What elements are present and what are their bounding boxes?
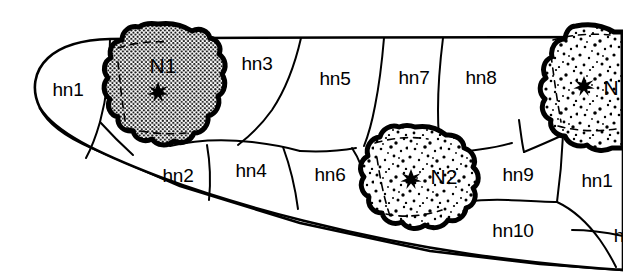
nodule-N1: N1 <box>104 23 225 144</box>
region-label-hn7: hn7 <box>398 67 429 88</box>
region-label-hn12: h <box>614 225 623 246</box>
nodule-label-N3: N <box>603 76 618 99</box>
region-label-hn8: hn8 <box>465 67 496 88</box>
region-label-hn10: hn10 <box>492 220 533 241</box>
region-label-hn5: hn5 <box>319 68 350 89</box>
region-label-hn1: hn1 <box>52 79 83 100</box>
nodule-label-N2: N2 <box>431 165 458 188</box>
region-label-hn6: hn6 <box>314 164 345 185</box>
figure-root: N1 N2 N hn1 hn2 hn3 hn4 hn5 hn6 <box>0 0 623 280</box>
region-label-hn4: hn4 <box>235 160 267 181</box>
region-label-hn11: hn1 <box>581 170 612 191</box>
nodule-label-N1: N1 <box>150 54 177 77</box>
region-label-hn3: hn3 <box>241 53 272 74</box>
region-label-hn2: hn2 <box>162 165 193 186</box>
region-label-hn9: hn9 <box>502 164 533 185</box>
anatomical-diagram: N1 N2 N hn1 hn2 hn3 hn4 hn5 hn6 <box>0 0 623 280</box>
nodule-N2: N2 <box>361 126 479 229</box>
nodule-N3: N <box>540 25 623 151</box>
